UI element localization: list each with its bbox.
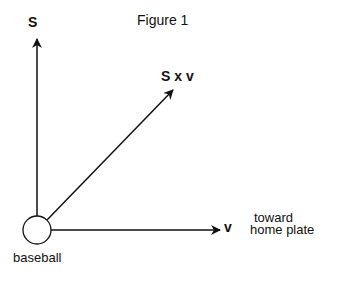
cross-product-label: S x v xyxy=(161,68,194,84)
cross-product-arrow xyxy=(47,90,173,220)
baseball-label: baseball xyxy=(13,250,61,265)
figure-title: Figure 1 xyxy=(137,12,188,28)
vector-diagram xyxy=(0,0,341,282)
direction-label-line2: home plate xyxy=(250,224,314,236)
velocity-vector-label: v xyxy=(224,219,232,235)
baseball-circle xyxy=(23,216,51,244)
spin-vector-label: S xyxy=(28,14,37,30)
direction-label: toward home plate xyxy=(250,212,314,236)
